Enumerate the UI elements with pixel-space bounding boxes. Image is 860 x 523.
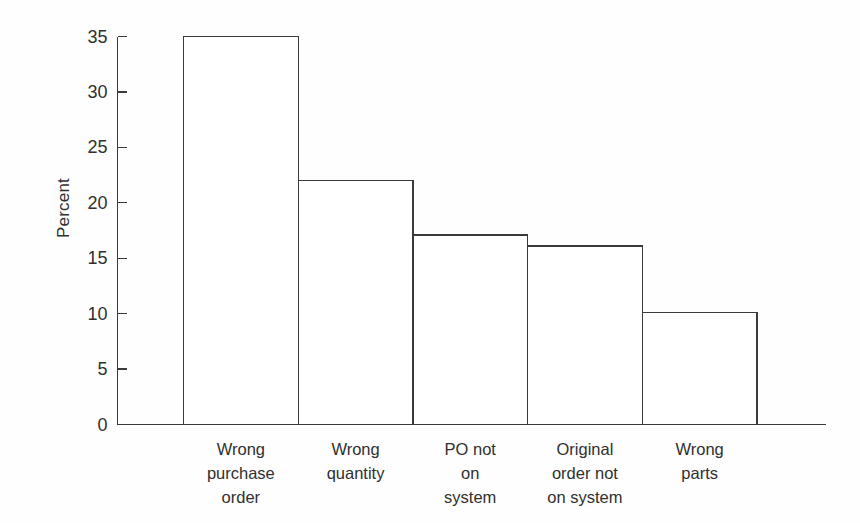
y-tick-label-10: 10 — [62, 305, 108, 323]
bar-4 — [528, 246, 643, 424]
y-tick-label-25: 25 — [62, 138, 108, 156]
chart-page: Percent 05101520253035 Wrong purchase or… — [0, 0, 860, 523]
y-tick-label-20: 20 — [62, 194, 108, 212]
y-tick-label-5: 5 — [62, 360, 108, 378]
y-tick-label-30: 30 — [62, 83, 108, 101]
y-tick-label-35: 35 — [62, 28, 108, 46]
x-category-label-5: Wrong parts — [620, 437, 780, 485]
bar-series — [184, 37, 758, 425]
bar-chart: Percent 05101520253035 Wrong purchase or… — [0, 0, 860, 523]
bar-3 — [413, 235, 528, 425]
bar-1 — [184, 37, 299, 425]
bar-2 — [298, 181, 413, 425]
axis-ticks — [118, 37, 127, 370]
bar-5 — [642, 313, 757, 425]
y-tick-label-0: 0 — [62, 416, 108, 434]
y-tick-label-15: 15 — [62, 249, 108, 267]
